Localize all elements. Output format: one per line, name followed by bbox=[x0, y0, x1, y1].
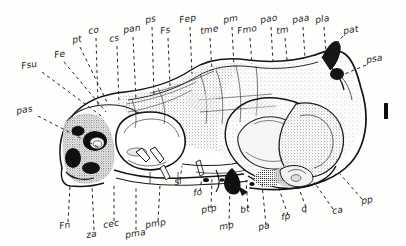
label-ps: ps bbox=[145, 14, 157, 25]
label-fs: Fs bbox=[160, 26, 172, 36]
figure-panel: Fsu Fe pt co cs pan ps Fs Fep tme pm Fmo… bbox=[0, 0, 406, 246]
label-co: co bbox=[88, 25, 100, 36]
label-fo: fo bbox=[193, 188, 203, 198]
label-si: si bbox=[174, 177, 183, 187]
scale-bar bbox=[384, 103, 388, 119]
label-cs: cs bbox=[109, 34, 120, 44]
label-pa: pa bbox=[258, 221, 271, 232]
label-fp: fp bbox=[281, 212, 292, 222]
label-pt: pt bbox=[72, 35, 83, 45]
label-fn: Fn bbox=[59, 220, 72, 231]
label-za: za bbox=[86, 229, 98, 240]
label-bt: bt bbox=[240, 205, 251, 215]
label-ca: ca bbox=[332, 205, 344, 216]
label-pp: pp bbox=[361, 195, 374, 206]
label-fe: Fe bbox=[54, 49, 66, 60]
label-q: q bbox=[301, 204, 308, 214]
